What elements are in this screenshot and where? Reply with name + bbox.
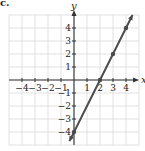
y-tick-label: 2 bbox=[65, 49, 71, 59]
x-axis-label: x bbox=[141, 74, 145, 85]
y-tick-label: −1 bbox=[58, 88, 71, 98]
y-tick-label: 3 bbox=[65, 36, 71, 46]
y-tick-label: 4 bbox=[65, 23, 71, 33]
x-tick-label: 4 bbox=[123, 83, 129, 93]
y-tick-label: 1 bbox=[65, 62, 71, 72]
x-tick-label: −2 bbox=[41, 83, 54, 93]
y-tick-label: −3 bbox=[58, 114, 72, 124]
x-tick-label: −3 bbox=[28, 83, 42, 93]
y-tick-label: −2 bbox=[58, 101, 71, 111]
x-tick-label: 3 bbox=[110, 83, 116, 93]
data-point bbox=[111, 52, 115, 56]
line-chart: xy−4−3−2−11234−4−3−2−11234 bbox=[0, 0, 145, 151]
y-axis-label: y bbox=[70, 0, 77, 11]
data-point bbox=[72, 130, 76, 134]
data-point bbox=[98, 78, 102, 82]
x-axis-arrow-icon bbox=[133, 78, 139, 83]
x-tick-label: −4 bbox=[15, 83, 29, 93]
x-tick-label: 1 bbox=[84, 83, 90, 93]
y-tick-label: −4 bbox=[58, 127, 72, 137]
data-point bbox=[124, 26, 128, 30]
